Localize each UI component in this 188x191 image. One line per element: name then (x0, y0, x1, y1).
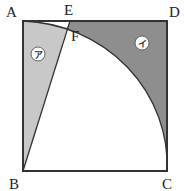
label-e: E (64, 2, 73, 18)
label-f: F (71, 28, 79, 44)
label-c: C (162, 176, 172, 191)
label-b: B (9, 176, 19, 191)
geometry-figure: ア イ A E D F B C (0, 0, 188, 191)
region-a-label: ア (34, 50, 43, 60)
region-i-label: イ (138, 39, 147, 49)
label-a: A (6, 4, 17, 20)
label-d: D (169, 4, 180, 20)
